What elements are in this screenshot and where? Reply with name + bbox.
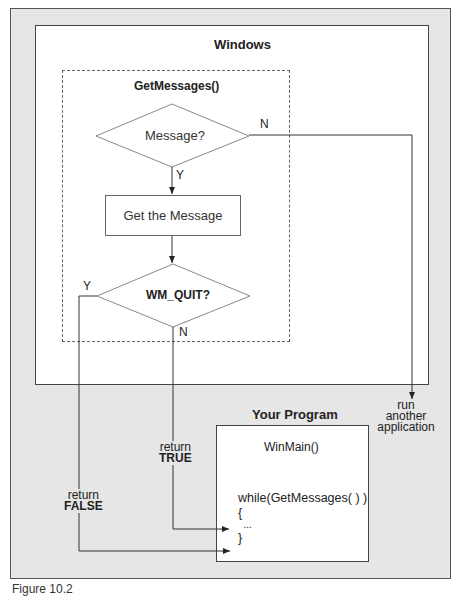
your-program-title: Your Program xyxy=(252,407,338,422)
get-message-process: Get the Message xyxy=(105,195,241,236)
message-yes-label: Y xyxy=(176,168,184,182)
wmquit-no-label: N xyxy=(179,325,188,339)
return-true-label: return TRUE xyxy=(158,441,193,465)
get-message-label: Get the Message xyxy=(124,208,223,223)
code-while-line: while(GetMessages( ) ) xyxy=(238,491,367,506)
return-false-line2: FALSE xyxy=(64,501,103,512)
winmain-label: WinMain() xyxy=(264,440,319,454)
message-decision-label: Message? xyxy=(145,128,205,143)
run-line3: application xyxy=(360,422,452,433)
getmessages-title: GetMessages() xyxy=(134,79,219,93)
windows-title: Windows xyxy=(214,37,271,52)
wmquit-decision-label: WM_QUIT? xyxy=(146,288,210,302)
code-close-brace: } xyxy=(238,531,242,546)
wmquit-yes-label: Y xyxy=(83,279,91,293)
figure-caption: Figure 10.2 xyxy=(12,582,73,596)
message-no-label: N xyxy=(260,117,269,131)
code-ellipsis: ... xyxy=(238,517,252,532)
return-true-line2: TRUE xyxy=(159,453,192,464)
return-false-label: return FALSE xyxy=(63,489,104,513)
